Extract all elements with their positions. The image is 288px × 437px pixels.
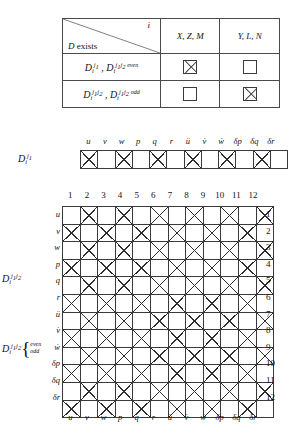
strip-section: Dij1 uvwpqrüv̇ẇδpδqδr	[0, 136, 288, 178]
bottom-header-3: w	[101, 412, 107, 422]
empty-box-icon	[183, 87, 197, 101]
main-cell-r6-c3	[98, 294, 116, 312]
main-cell-r5-c4	[115, 277, 133, 295]
col-number-2: 2	[85, 190, 90, 200]
legend-table: i D exists X, Z, M Y, L, N Dij1 , Dij1j2…	[62, 18, 280, 108]
bottom-header-4: p	[118, 412, 122, 422]
main-cell-r2-c9	[203, 224, 221, 242]
main-cell-r10-c9	[203, 365, 221, 383]
main-row-numbers: 123456789101112	[266, 206, 286, 405]
strip-cell-4	[132, 151, 149, 169]
main-cell-r4-c1	[63, 259, 81, 277]
main-bottom-headers: uvwpqrüv̇ẇδpδqδr	[62, 412, 262, 426]
strip-cell-5	[150, 151, 167, 169]
main-cell-r4-c11	[238, 259, 256, 277]
main-cell-r4-c8	[186, 259, 204, 277]
main-cell-r9-c2	[80, 347, 98, 365]
legend-header-row: i D exists X, Z, M Y, L, N	[63, 19, 280, 54]
bottom-header-12: δr	[249, 412, 256, 422]
row-number-5: 5	[266, 272, 286, 289]
legend-axis-row-label: D exists	[68, 41, 97, 51]
bottom-header-1: u	[68, 412, 72, 422]
main-cell-r11-c10	[221, 382, 239, 400]
col-number-7: 7	[168, 190, 173, 200]
bottom-header-7: ü	[168, 412, 172, 422]
strip-header-8: v̇	[203, 136, 207, 146]
col-number-6: 6	[151, 190, 156, 200]
main-cell-r1-c10	[221, 207, 239, 225]
main-cell-r1-c3	[98, 207, 116, 225]
main-grid-row	[63, 242, 274, 260]
main-cell-r4-c5	[133, 259, 151, 277]
main-grid-row	[63, 294, 274, 312]
main-cell-r1-c8	[186, 207, 204, 225]
strip-cell-10	[236, 151, 253, 169]
main-cell-r2-c5	[133, 224, 151, 242]
main-cell-r11-c4	[115, 382, 133, 400]
legend-row-2-math: Dij1j2 , Dij1j2 odd	[83, 89, 139, 100]
row-header-3: w	[34, 239, 60, 256]
checked-box-icon	[243, 87, 257, 101]
main-cell-r8-c4	[115, 330, 133, 348]
main-cell-r9-c4	[115, 347, 133, 365]
row-header-5: q	[34, 272, 60, 289]
main-cell-r5-c3	[98, 277, 116, 295]
main-cell-r6-c8	[186, 294, 204, 312]
main-cell-r10-c6	[150, 365, 168, 383]
main-cell-r5-c5	[133, 277, 151, 295]
main-cell-r8-c3	[98, 330, 116, 348]
col-number-9: 9	[201, 190, 206, 200]
main-cell-r11-c3	[98, 382, 116, 400]
row-header-11: δq	[34, 372, 60, 389]
empty-box-icon	[243, 60, 257, 74]
figure-root: i D exists X, Z, M Y, L, N Dij1 , Dij1j2…	[0, 0, 288, 437]
row-number-6: 6	[266, 289, 286, 306]
main-cell-r7-c2	[80, 312, 98, 330]
bottom-header-2: v	[85, 412, 89, 422]
legend-axis-col-label: i	[147, 20, 150, 30]
main-grid-row	[63, 259, 274, 277]
row-number-12: 12	[266, 389, 286, 406]
main-cell-r5-c7	[168, 277, 186, 295]
row-number-8: 8	[266, 322, 286, 339]
main-grid-row	[63, 207, 274, 225]
main-cell-r1-c1	[63, 207, 81, 225]
legend-row-2: Dij1j2 , Dij1j2 odd	[63, 81, 280, 108]
main-cell-r2-c11	[238, 224, 256, 242]
main-cell-r3-c5	[133, 242, 151, 260]
legend-col-header-yln: Y, L, N	[220, 19, 280, 54]
strip-header-2: v	[103, 136, 107, 146]
main-cell-r3-c3	[98, 242, 116, 260]
col-number-11: 11	[232, 190, 241, 200]
main-cell-r9-c1	[63, 347, 81, 365]
main-cell-r4-c2	[80, 259, 98, 277]
strip-cell-1	[81, 151, 98, 169]
main-cell-r6-c9	[203, 294, 221, 312]
col-number-4: 4	[118, 190, 123, 200]
legend-axis-row-text: exists	[75, 41, 98, 51]
main-grid-row	[63, 312, 274, 330]
col-number-5: 5	[134, 190, 139, 200]
main-cell-r5-c11	[238, 277, 256, 295]
col-number-12: 12	[248, 190, 257, 200]
main-cell-r6-c2	[80, 294, 98, 312]
strip-header-11: δq	[250, 136, 258, 146]
main-cell-r1-c5	[133, 207, 151, 225]
legend-row-1-math: Dij1 , Dij1j2 even	[85, 62, 138, 73]
main-cell-r9-c9	[203, 347, 221, 365]
main-cell-r7-c3	[98, 312, 116, 330]
row-header-12: δr	[34, 389, 60, 406]
main-cell-r2-c6	[150, 224, 168, 242]
main-cell-r2-c2	[80, 224, 98, 242]
main-cell-r11-c7	[168, 382, 186, 400]
main-cell-r1-c7	[168, 207, 186, 225]
main-cell-r8-c8	[186, 330, 204, 348]
bottom-header-9: ẇ	[200, 412, 206, 422]
main-cell-r5-c6	[150, 277, 168, 295]
main-cell-r6-c4	[115, 294, 133, 312]
col-number-10: 10	[215, 190, 224, 200]
strip-cell-3	[115, 151, 132, 169]
strip-header-6: r	[170, 136, 173, 146]
main-cell-r4-c7	[168, 259, 186, 277]
main-cell-r2-c4	[115, 224, 133, 242]
